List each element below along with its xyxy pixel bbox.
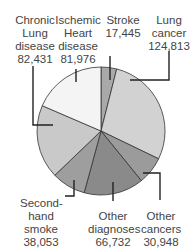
label-text: cancer [145,27,193,40]
label-value: 38,053 [20,236,62,249]
label-text: Heart [55,27,101,40]
label-second-hand-smoke: Second- hand smoke 38,053 [20,197,62,249]
label-value: 124,813 [145,40,193,53]
label-ischemic-heart-disease: Ischemic Heart disease 81,976 [55,14,101,66]
label-other-diagnoses: Other diagnoses 66,732 [88,210,138,249]
label-stroke: Stroke 17,445 [103,14,143,40]
label-text: Lung [145,14,193,27]
label-other-cancers: Other cancers 30,948 [141,210,181,249]
pie-slices [37,67,165,195]
label-text: Chronic [12,14,58,27]
label-text: disease [12,40,58,53]
label-text: Second- [20,197,62,210]
label-text: smoke [20,223,62,236]
label-lung-cancer: Lung cancer 124,813 [145,14,193,53]
label-text: Stroke [103,14,143,27]
label-value: 30,948 [141,236,181,249]
label-text: Ischemic [55,14,101,27]
label-text: diagnoses [88,223,138,236]
label-value: 66,732 [88,236,138,249]
leader-lung-cancer [130,51,169,80]
label-text: Lung [12,27,58,40]
label-text: disease [55,40,101,53]
label-text: hand [20,210,62,223]
label-value: 81,976 [55,53,101,66]
label-value: 82,431 [12,53,58,66]
label-chronic-lung-disease: Chronic Lung disease 82,431 [12,14,58,66]
label-text: Other [141,210,181,223]
label-text: Other [88,210,138,223]
label-value: 17,445 [103,27,143,40]
label-text: cancers [141,223,181,236]
